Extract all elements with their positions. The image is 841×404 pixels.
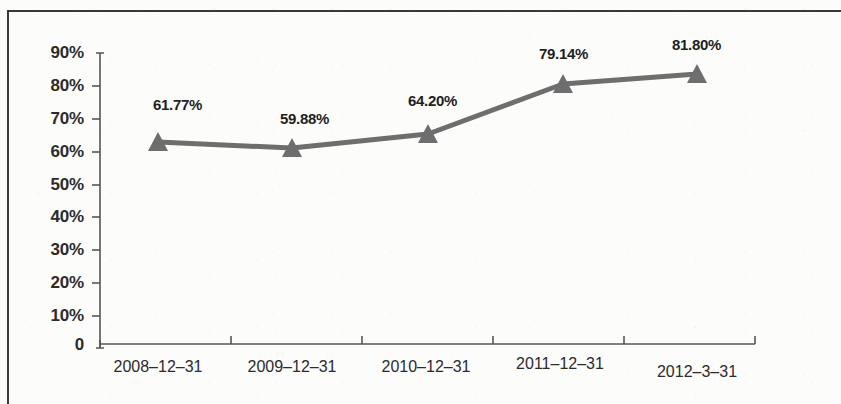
y-tick-label-20: 20%: [24, 273, 84, 293]
data-point-label-1: 59.88%: [280, 110, 329, 127]
y-tick-label-80: 80%: [24, 76, 84, 96]
x-axis: [100, 336, 755, 348]
x-tick-label-1: 2009–12–31: [232, 358, 352, 376]
x-tick-label-0: 2008–12–31: [98, 358, 218, 376]
x-tick-label-3: 2011–12–31: [500, 355, 620, 373]
x-axis-ticks: [231, 336, 624, 344]
y-tick-label-30: 30%: [24, 240, 84, 260]
data-point-label-4: 81.80%: [672, 36, 721, 53]
data-point-label-0: 61.77%: [153, 96, 202, 113]
x-tick-label-4: 2012–3–31: [637, 363, 757, 381]
data-point-label-3: 79.14%: [539, 45, 588, 62]
y-tick-label-50: 50%: [24, 175, 84, 195]
line-chart-plot: [0, 0, 841, 404]
y-tick-label-40: 40%: [24, 207, 84, 227]
y-tick-label-90: 90%: [24, 43, 84, 63]
y-tick-label-0: 0: [24, 335, 84, 355]
y-tick-label-70: 70%: [24, 109, 84, 129]
x-tick-label-2: 2010–12–31: [366, 358, 486, 376]
y-tick-label-10: 10%: [24, 306, 84, 326]
y-axis-ticks: [92, 86, 100, 316]
y-tick-label-60: 60%: [24, 142, 84, 162]
data-point-label-2: 64.20%: [408, 92, 457, 109]
y-axis: [96, 53, 104, 348]
chart-page: 90% 80% 70% 60% 50% 40% 30% 20% 10% 0 20…: [0, 0, 841, 404]
